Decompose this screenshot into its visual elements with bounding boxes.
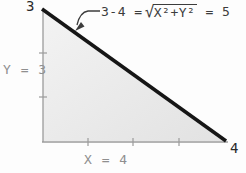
triangle-diagram: 3 4 Y = 3 X = 4 3-4 = √ X²+Y² = 5 bbox=[0, 0, 246, 173]
y-side-label: Y = 3 bbox=[3, 62, 47, 77]
leader-arrowhead-icon bbox=[75, 22, 85, 31]
vertex-label-top: 3 bbox=[26, 0, 34, 14]
formula-prefix: 3-4 = bbox=[101, 4, 143, 19]
formula-result: = 5 bbox=[205, 4, 230, 19]
formula-radicand: X²+Y² bbox=[153, 4, 198, 20]
diagram-canvas bbox=[0, 0, 246, 173]
hypotenuse-formula: 3-4 = √ X²+Y² = 5 bbox=[101, 4, 230, 20]
x-side-label: X = 4 bbox=[84, 152, 128, 167]
vertex-label-right: 4 bbox=[230, 140, 238, 156]
